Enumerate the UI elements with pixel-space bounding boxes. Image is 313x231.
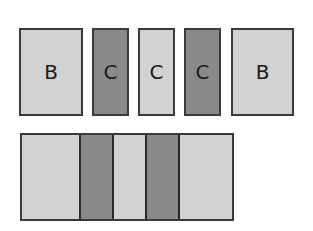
strip-segment-c-1 — [79, 135, 112, 219]
strip-segment-b-left — [22, 135, 79, 219]
block-c-3: C — [184, 28, 221, 116]
strip-segment-c-2 — [112, 135, 145, 219]
strip-segment-c-3 — [145, 135, 178, 219]
block-c-2: C — [138, 28, 175, 116]
block-label: B — [44, 60, 58, 84]
block-b-left: B — [19, 28, 83, 116]
block-label: C — [150, 60, 164, 84]
block-c-1: C — [92, 28, 129, 116]
block-label: B — [256, 60, 270, 84]
strip-segment-b-right — [178, 135, 232, 219]
block-label: C — [104, 60, 118, 84]
block-label: C — [196, 60, 210, 84]
block-b-right: B — [231, 28, 294, 116]
combined-strip — [20, 133, 234, 221]
